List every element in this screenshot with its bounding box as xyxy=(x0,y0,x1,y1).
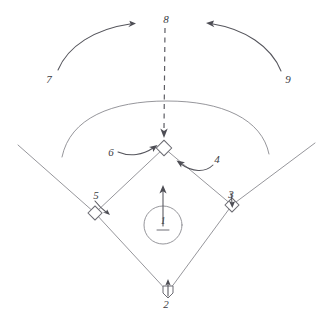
arrow-position-8 xyxy=(160,28,167,138)
label-position-9: 9 xyxy=(285,73,291,85)
right-foul-line xyxy=(168,143,315,292)
label-position-2: 2 xyxy=(163,298,169,310)
label-position-5: 5 xyxy=(93,189,99,201)
label-position-4: 4 xyxy=(214,153,220,165)
arrow-position-6 xyxy=(118,145,158,155)
label-position-7: 7 xyxy=(46,73,52,85)
arrow-position-4 xyxy=(177,161,214,171)
label-position-8: 8 xyxy=(163,13,169,25)
label-position-1: 1 xyxy=(161,216,166,226)
label-position-3: 3 xyxy=(227,188,234,200)
baseball-field-diagram: 1 2 3 4 5 6 7 8 9 xyxy=(0,0,329,324)
arrow-position-7 xyxy=(58,21,136,70)
label-position-6: 6 xyxy=(108,146,114,158)
arrow-position-9 xyxy=(206,21,281,72)
